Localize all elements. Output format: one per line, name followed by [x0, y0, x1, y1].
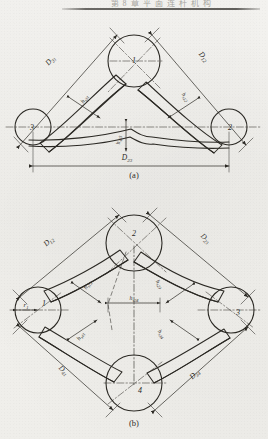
- dim-label-D23-b: D23: [198, 231, 213, 246]
- dim-D34-b: [148, 320, 255, 417]
- figure-a-caption: (a): [114, 170, 154, 180]
- dim-D23-b: [143, 208, 255, 304]
- thk-label-hs24-b: hs24: [130, 295, 140, 303]
- thk-label-hs34-b: hs34: [155, 328, 167, 340]
- thk-label-hs41-b: hs41: [75, 330, 86, 342]
- thk-label-hs12-b: hs12: [82, 279, 94, 291]
- dim-sub-D31: 31: [51, 57, 58, 64]
- thk-label-hs23-b: hs23: [153, 279, 164, 291]
- link-3-2-body: [29, 129, 229, 148]
- joint-label-1a: 1: [132, 56, 136, 65]
- dim-D31: [14, 28, 124, 152]
- joint-label-2a: 2: [228, 123, 232, 132]
- dim-D41-b: [13, 320, 120, 417]
- dim-label-D31-a: D31: [43, 53, 58, 68]
- link-1-2-body-b: [44, 250, 128, 302]
- joint-label-4b: 4: [138, 386, 142, 395]
- dim-label-D12-a: D12: [196, 49, 211, 64]
- figures-canvas: 1 3 2 2 1 3 4 D31 D12 D23 hs31 hs12: [0, 0, 268, 439]
- thk-hs34-b: [170, 320, 196, 338]
- dim-D12: [145, 28, 253, 152]
- dim-sub-D12a: 12: [200, 57, 207, 64]
- joint-label-1b: 1: [42, 299, 46, 308]
- joint-label-2b: 2: [132, 229, 136, 238]
- thk-hs23-b: [166, 285, 192, 303]
- figure-a-group: [6, 28, 262, 172]
- link-2-3-body-b: [134, 252, 224, 302]
- dim-label-D23-a: D23: [121, 153, 133, 163]
- figure-b-group: [10, 208, 260, 417]
- joint-label-3a: 3: [29, 123, 34, 132]
- labels-layer: 1 3 2 2 1 3 4 D31 D12 D23 hs31 hs12: [23, 49, 240, 395]
- thk-label-hs12-a: hs12: [179, 91, 191, 103]
- dim-sub-D23a: 23: [127, 158, 133, 163]
- figure-b-caption: (b): [114, 418, 154, 428]
- joint-label-3b: 3: [235, 308, 240, 317]
- dim-label-D12-b: D12: [41, 234, 56, 249]
- radius-label-r1-b: r1: [23, 301, 28, 310]
